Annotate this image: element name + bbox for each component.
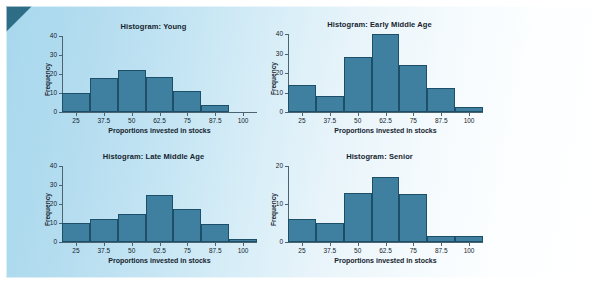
chart-senior: Histogram: Senior01020Frequency2537.5506… [262, 152, 497, 272]
y-tick-mark [285, 242, 288, 243]
histogram-bar [344, 57, 372, 112]
histogram-bar [316, 96, 344, 112]
x-tick-label: 50 [118, 117, 146, 124]
x-tick-label: 87.5 [427, 247, 455, 254]
x-tick-mark [386, 113, 387, 116]
x-tick-mark [132, 113, 133, 116]
x-axis-label-late-middle-age: Proportions invested in stocks [62, 257, 257, 264]
x-tick-label: 25 [62, 247, 90, 254]
y-tick-label: 30 [264, 50, 283, 57]
y-tick-label: 40 [38, 32, 57, 39]
histogram-bar [90, 78, 118, 112]
x-tick-label: 100 [229, 247, 257, 254]
x-tick-mark [469, 243, 470, 246]
x-tick-label: 100 [455, 117, 483, 124]
x-tick-label: 37.5 [316, 117, 344, 124]
y-tick-label: 40 [38, 162, 57, 169]
x-tick-mark [160, 113, 161, 116]
x-tick-label: 100 [229, 117, 257, 124]
histogram-bar [316, 223, 344, 242]
histogram-bar [62, 223, 90, 242]
plot-area-early-middle-age: 010203040Frequency2537.55062.57587.5100P… [262, 20, 497, 130]
histogram-bar [173, 209, 201, 242]
bars-early-middle-age [288, 34, 483, 112]
x-tick-label: 75 [399, 247, 427, 254]
x-tick-label: 75 [173, 247, 201, 254]
y-tick-label: 0 [264, 238, 283, 245]
figure-page: Histogram: Young010203040Frequency2537.5… [0, 0, 604, 291]
plot-area-late-middle-age: 010203040Frequency2537.55062.57587.5100P… [36, 152, 271, 260]
y-tick-label: 20 [264, 162, 283, 169]
x-axis-label-senior: Proportions invested in stocks [288, 257, 483, 264]
histogram-bar [399, 194, 427, 242]
x-axis-label-early-middle-age: Proportions invested in stocks [288, 127, 483, 134]
x-tick-mark [132, 243, 133, 246]
bars-senior [288, 166, 483, 242]
histogram-bar [455, 107, 483, 112]
x-tick-label: 50 [344, 117, 372, 124]
x-tick-label: 37.5 [90, 117, 118, 124]
corner-fold-decoration [6, 6, 32, 32]
x-tick-mark [358, 113, 359, 116]
x-tick-mark [243, 243, 244, 246]
x-tick-mark [413, 113, 414, 116]
x-tick-mark [330, 243, 331, 246]
x-tick-label: 62.5 [372, 247, 400, 254]
y-tick-label: 0 [38, 108, 57, 115]
x-tick-mark [104, 243, 105, 246]
x-tick-mark [358, 243, 359, 246]
y-tick-mark [59, 112, 62, 113]
x-tick-mark [469, 113, 470, 116]
histogram-bar [288, 85, 316, 112]
x-tick-mark [330, 113, 331, 116]
x-tick-mark [302, 243, 303, 246]
x-tick-label: 25 [288, 117, 316, 124]
y-axis-label-late-middle-age: Frequency [44, 193, 51, 226]
histogram-bar [229, 239, 257, 242]
x-tick-label: 62.5 [372, 117, 400, 124]
histogram-bar [372, 34, 400, 112]
plot-area-young: 010203040Frequency2537.55062.57587.5100P… [36, 22, 271, 130]
x-tick-label: 62.5 [146, 247, 174, 254]
x-tick-label: 75 [399, 117, 427, 124]
chart-young: Histogram: Young010203040Frequency2537.5… [36, 22, 271, 142]
histogram-bar [344, 193, 372, 242]
x-tick-label: 87.5 [201, 247, 229, 254]
x-tick-label: 100 [455, 247, 483, 254]
y-tick-label: 40 [264, 30, 283, 37]
histogram-bar [372, 177, 400, 242]
chart-early-middle-age: Histogram: Early Middle Age010203040Freq… [262, 20, 497, 142]
histogram-bar [90, 219, 118, 242]
x-tick-label: 25 [288, 247, 316, 254]
y-tick-mark [285, 112, 288, 113]
histogram-bar [201, 224, 229, 242]
chart-late-middle-age: Histogram: Late Middle Age010203040Frequ… [36, 152, 271, 272]
x-tick-mark [187, 113, 188, 116]
histogram-bar [427, 88, 455, 112]
histogram-bar [146, 77, 174, 112]
x-tick-label: 25 [62, 117, 90, 124]
y-axis-label-early-middle-age: Frequency [270, 62, 277, 95]
x-tick-mark [215, 113, 216, 116]
x-tick-label: 75 [173, 117, 201, 124]
y-tick-mark [59, 242, 62, 243]
x-tick-mark [386, 243, 387, 246]
x-tick-label: 87.5 [201, 117, 229, 124]
figure-panel: Histogram: Young010203040Frequency2537.5… [6, 6, 592, 278]
x-tick-label: 62.5 [146, 117, 174, 124]
histogram-bar [118, 70, 146, 112]
x-tick-mark [302, 113, 303, 116]
y-axis-label-senior: Frequency [270, 193, 277, 226]
histogram-bar [427, 236, 455, 242]
x-tick-mark [441, 243, 442, 246]
x-tick-mark [76, 243, 77, 246]
x-tick-mark [187, 243, 188, 246]
x-tick-mark [441, 113, 442, 116]
bars-late-middle-age [62, 166, 257, 242]
histogram-bar [173, 91, 201, 112]
x-tick-label: 50 [118, 247, 146, 254]
x-tick-mark [160, 243, 161, 246]
histogram-bar [146, 195, 174, 243]
bars-young [62, 36, 257, 112]
x-tick-mark [243, 113, 244, 116]
